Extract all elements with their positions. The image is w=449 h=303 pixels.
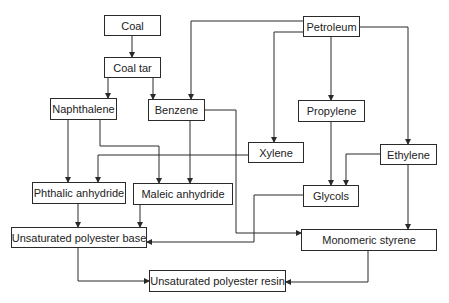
edge-ethylene-to-glycols	[346, 154, 380, 185]
polyester-resin-flow-diagram: Coal Coal tar Naphthalene Benzene Petrol…	[0, 0, 449, 303]
node-ethylene: Ethylene	[380, 144, 437, 165]
node-monomeric-styrene: Monomeric styrene	[301, 229, 437, 251]
edge-xylene-to-phthalic-anhydride	[98, 155, 248, 182]
node-benzene: Benzene	[148, 99, 205, 121]
node-phthalic-anhydride: Phthalic anhydride	[32, 182, 126, 204]
node-maleic-anhydride: Maleic anhydride	[133, 183, 233, 205]
edge-monomeric-styrene-to-up-resin	[286, 251, 368, 282]
edge-benzene-to-monomeric-styrene	[205, 110, 301, 233]
edge-naphthalene-to-maleic-anhydride	[100, 120, 159, 183]
node-naphthalene: Naphthalene	[50, 98, 117, 120]
node-unsaturated-polyester-resin: Unsaturated polyester resin	[149, 270, 286, 292]
node-coal-tar: Coal tar	[104, 57, 161, 78]
node-propylene: Propylene	[298, 100, 365, 122]
edge-petroleum-to-xylene	[274, 32, 303, 142]
node-glycols: Glycols	[303, 185, 359, 207]
edge-petroleum-to-ethylene	[360, 27, 408, 144]
node-unsaturated-polyester-base: Unsaturated polyester base	[11, 227, 147, 248]
node-petroleum: Petroleum	[303, 16, 360, 37]
node-coal: Coal	[104, 15, 161, 36]
node-xylene: Xylene	[248, 142, 304, 163]
edge-petroleum-to-benzene	[191, 21, 303, 99]
edge-up-base-to-up-resin	[78, 248, 149, 281]
